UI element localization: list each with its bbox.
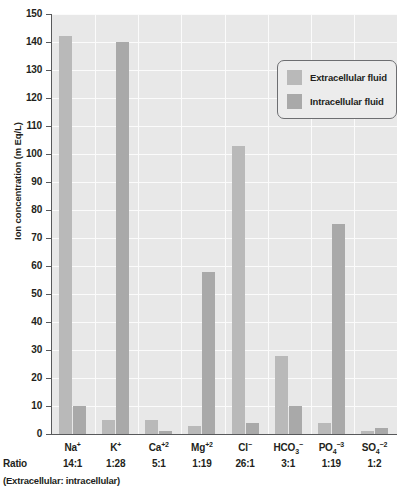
x-axis-label: Mg+2 — [181, 439, 223, 454]
x-axis-label: HCO3− — [267, 439, 309, 458]
legend: Extracellular fluid Intracellular fluid — [277, 60, 397, 119]
y-tick-label: 40 — [0, 317, 42, 327]
x-axis-label: Na+ — [52, 439, 94, 454]
y-tick-label: 60 — [0, 261, 42, 271]
y-tick-label: 20 — [0, 373, 42, 383]
ratio-value: 14:1 — [52, 458, 94, 470]
bar-intracellular — [246, 423, 259, 434]
bar-intracellular — [116, 42, 129, 434]
x-axis-label: Ca+2 — [138, 439, 180, 454]
bar-extracellular — [188, 426, 201, 434]
bar-extracellular — [59, 36, 72, 434]
ratio-value: 1:2 — [353, 458, 395, 470]
ratio-value: 1:19 — [181, 458, 223, 470]
ratio-value: 1:28 — [95, 458, 137, 470]
bar-extracellular — [361, 431, 374, 434]
bar-group — [225, 14, 268, 434]
bar-intracellular — [73, 406, 86, 434]
bar-group — [52, 14, 95, 434]
y-tick-label: 50 — [0, 289, 42, 299]
y-tick-label: 80 — [0, 205, 42, 215]
ratio-row-label: Ratio — [3, 458, 27, 470]
bar-intracellular — [332, 224, 345, 434]
y-tick-label: 100 — [0, 149, 42, 159]
x-axis-labels: Na+K+Ca+2Mg+2Cl−HCO3−PO4−3SO4−2 — [51, 439, 396, 455]
bar-group — [95, 14, 138, 434]
bar-group — [181, 14, 224, 434]
x-axis-label: Cl− — [224, 439, 266, 454]
bar-extracellular — [318, 423, 331, 434]
y-tick-label: 70 — [0, 233, 42, 243]
y-tick-label: 120 — [0, 93, 42, 103]
bar-intracellular — [289, 406, 302, 434]
ratio-values-row: 14:11:285:11:1926:13:11:191:2 — [51, 458, 396, 474]
ratio-value: 26:1 — [224, 458, 266, 470]
legend-swatch-extracellular — [287, 70, 302, 85]
legend-swatch-intracellular — [287, 94, 302, 109]
y-axis: 1501401301201101009080706050403020100 — [0, 0, 51, 493]
plot-area: Extracellular fluid Intracellular fluid — [51, 14, 397, 435]
legend-item-intracellular: Intracellular fluid — [287, 93, 387, 110]
y-tick-label: 140 — [0, 37, 42, 47]
ratio-note: (Extracellular: intracellular) — [3, 475, 120, 487]
bar-intracellular — [375, 428, 388, 434]
bar-intracellular — [159, 431, 172, 434]
bar-group — [138, 14, 181, 434]
bar-extracellular — [275, 356, 288, 434]
y-tick-label: 0 — [0, 429, 42, 439]
ion-concentration-chart: Ion concentration (m Eq/L) 1501401301201… — [0, 0, 402, 493]
y-tick-label: 150 — [0, 9, 42, 19]
y-tick-label: 90 — [0, 177, 42, 187]
bar-extracellular — [145, 420, 158, 434]
bar-extracellular — [102, 420, 115, 434]
ratio-value: 1:19 — [310, 458, 352, 470]
bar-intracellular — [202, 272, 215, 434]
y-tick-label: 10 — [0, 401, 42, 411]
bar-extracellular — [232, 146, 245, 434]
y-tick-label: 130 — [0, 65, 42, 75]
ratio-value: 5:1 — [138, 458, 180, 470]
x-axis-label: PO4−3 — [310, 439, 352, 458]
legend-item-extracellular: Extracellular fluid — [287, 69, 387, 86]
ratio-value: 3:1 — [267, 458, 309, 470]
y-tick-label: 110 — [0, 121, 42, 131]
y-tick-label: 30 — [0, 345, 42, 355]
legend-label-extracellular: Extracellular fluid — [310, 72, 387, 83]
x-axis-label: K+ — [95, 439, 137, 454]
x-axis-label: SO4−2 — [353, 439, 395, 458]
legend-label-intracellular: Intracellular fluid — [310, 96, 384, 107]
